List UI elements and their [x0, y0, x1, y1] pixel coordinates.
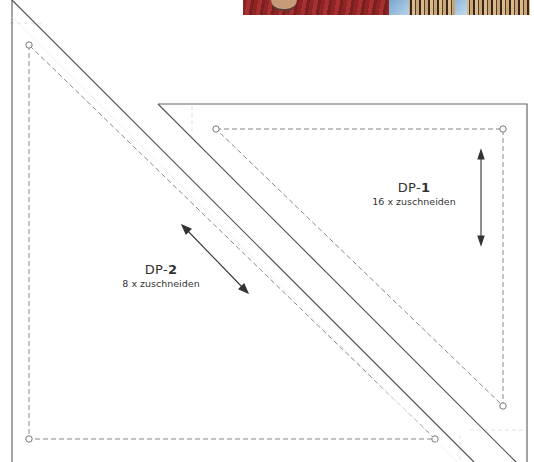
dp1-corner-marker [500, 126, 506, 132]
dp2-corner-marker [26, 42, 32, 48]
dp1-title: DP-1 [364, 180, 464, 195]
dp2-cut-line-diagonal [12, 0, 474, 462]
dp2-corner-marker [26, 436, 32, 442]
dp2-corner-marker [432, 436, 438, 442]
piece-dp-1 [158, 104, 527, 462]
dp1-grain-arrow-icon [478, 150, 484, 245]
dp1-instruction: 16 x zuschneiden [364, 196, 464, 207]
dp2-label: DP-2 8 x zuschneiden [111, 262, 211, 289]
dp2-title: DP-2 [111, 262, 211, 277]
dp1-cut-line-diagonal [158, 104, 516, 462]
dp1-corner-marker [213, 126, 219, 132]
spacer-line [12, 17, 457, 462]
piece-dp-2 [12, 0, 474, 462]
dp1-label: DP-1 16 x zuschneiden [364, 180, 464, 207]
dp1-corner-marker [500, 403, 506, 409]
pattern-diagram [0, 0, 534, 462]
dp1-cut-line-edges [158, 104, 527, 462]
dp2-instruction: 8 x zuschneiden [111, 278, 211, 289]
